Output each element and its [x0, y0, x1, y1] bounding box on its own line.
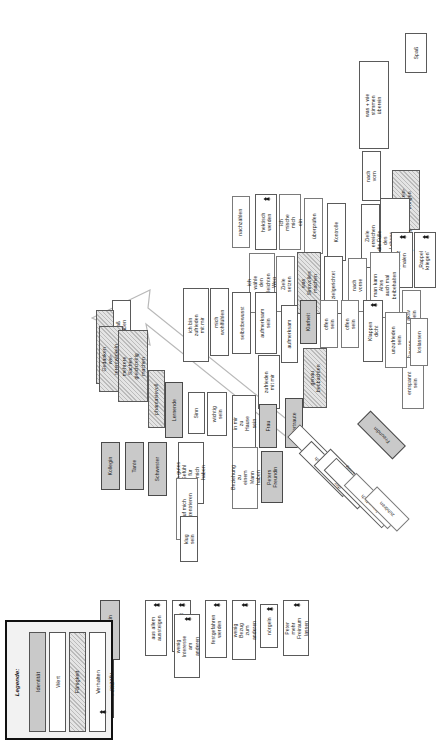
- legend-box: Legende: IdentitätWertFähigkeitVerhalten…: [5, 620, 113, 740]
- node-label: Klarheit: [305, 313, 311, 331]
- legend-item-label: Identität: [35, 672, 41, 692]
- legend-item-verhalten: Verhalten: [89, 632, 106, 732]
- negativ-marker-icon: [184, 617, 193, 621]
- node-label: ich wähle den leichten Weg: [246, 272, 277, 294]
- node-n42: phantasievoll: [148, 370, 165, 428]
- node-label: nach vorn: [365, 169, 377, 184]
- node-label: Kontrolle: [333, 221, 339, 242]
- node-label: entspannt sein: [407, 371, 419, 394]
- legend-item-wert: Wert: [49, 632, 66, 732]
- node-n34: loslassen: [410, 318, 428, 366]
- node-label: überprüfen: [310, 213, 316, 239]
- node-label: klug sein: [183, 532, 195, 546]
- legend-item-label: Fähigkeit: [75, 671, 81, 694]
- node-n47: Peters Freundin: [261, 451, 283, 503]
- node-n15: Ziele setzen: [276, 256, 295, 312]
- negativ-marker-icon: [266, 607, 275, 611]
- node-n03: nach vorn: [362, 151, 381, 201]
- node-label: genau beobachten: [309, 364, 321, 392]
- node-label: Tante: [131, 460, 137, 473]
- node-label: nörgeln: [266, 617, 272, 635]
- node-label: offen sein: [344, 317, 356, 331]
- node-label: zielgerichtet: [330, 271, 336, 299]
- node-n25: selbstbewusst: [232, 292, 251, 354]
- node-n12: überprüfen: [304, 198, 323, 254]
- node-n46: Beziehung zu einem Mann haben: [232, 447, 258, 509]
- node-n63: Peter mehr Freiraum lassen: [283, 600, 309, 656]
- node-label: in mir zu Hause sein: [232, 413, 257, 433]
- node-n61: wenig Bezug zum anderen: [232, 600, 256, 660]
- negativ-marker-icon: [370, 303, 379, 307]
- node-label: nach vorne: [351, 278, 363, 293]
- node-label: Peters Freundin: [266, 467, 278, 488]
- node-label: Kollegin: [107, 457, 113, 476]
- node-n10: hektisch werden: [255, 194, 277, 250]
- node-n01: Spaß: [405, 33, 427, 73]
- node-label: wenig Interesse am anderen: [175, 635, 200, 657]
- node-n29: offen sein: [320, 300, 338, 348]
- node-n02: was + wie stimmen überein: [359, 61, 389, 149]
- node-label: was + wie stimmen überein: [365, 93, 384, 116]
- node-n35: zufrieden mit mir: [258, 355, 280, 409]
- node-n48: Kollegin: [101, 442, 120, 490]
- node-label: Frau: [265, 421, 271, 432]
- node-n40: wichtig sein: [207, 392, 227, 436]
- node-label: man kann Altes auch mal beibehalten: [373, 271, 398, 298]
- node-label: Schwester: [154, 457, 160, 482]
- node-label: ich mische mich ein: [278, 213, 303, 231]
- legend-item-negativ: negativ: [107, 632, 116, 732]
- node-n70: Freundin: [357, 411, 406, 460]
- node-n59: wenig Interesse am anderen: [174, 614, 200, 678]
- legend-item-label: negativ: [109, 673, 115, 691]
- node-label: „Rappel kriegen“: [419, 250, 431, 269]
- node-n27: aufmerksam: [281, 305, 298, 363]
- node-label: phantasievoll: [153, 383, 159, 414]
- negativ-marker-icon: [293, 603, 302, 607]
- node-n09: nachzählen: [232, 196, 250, 248]
- negativ-marker-icon: [422, 235, 431, 239]
- negativ-marker-icon: [153, 603, 162, 607]
- node-label: Spaß: [413, 47, 419, 60]
- node-n08: „Rappel kriegen“: [414, 232, 436, 288]
- node-n41: Lernende: [165, 382, 183, 438]
- node-label: Klappen dicht: [367, 321, 379, 340]
- node-label: zufrieden mit mir: [263, 371, 275, 393]
- node-n60: festgefahren werden: [205, 600, 227, 658]
- legend-item-identitaet: Identität: [29, 632, 46, 732]
- node-label: festgefahren werden: [210, 614, 222, 644]
- node-label: mehrere Sachen gleichzeitig machen: [121, 353, 146, 379]
- node-n24: mich wohlfühlen: [210, 288, 229, 356]
- node-label: Ziele erreichen: [364, 225, 376, 247]
- node-n28: Klarheit: [300, 300, 317, 344]
- node-n62: nörgeln: [260, 604, 278, 648]
- node-label: wichtig sein: [211, 406, 223, 422]
- node-n45: klug sein: [180, 516, 198, 562]
- negativ-marker-icon: [399, 235, 408, 239]
- node-label: wenig Bezug zum anderen: [232, 620, 257, 640]
- node-n30: offen sein: [341, 300, 359, 348]
- negativ-marker-icon: [178, 603, 187, 607]
- node-label: unzufrieden sein: [390, 326, 402, 354]
- node-label: loslassen: [416, 331, 422, 353]
- node-label: zuhören: [378, 500, 396, 518]
- node-n49: Tante: [125, 442, 144, 490]
- node-n32: Klappen dicht: [363, 300, 383, 362]
- legend-item-faehigkeit: Fähigkeit: [69, 632, 86, 732]
- node-label: aufmerksam: [286, 319, 292, 348]
- node-n57: aus allem aussteigen: [145, 600, 167, 656]
- node-label: offen sein: [323, 317, 335, 331]
- poster-canvas: Spaßwas + wie stimmen übereinnach vornLi…: [0, 0, 438, 752]
- node-n37: Frau: [259, 404, 277, 448]
- node-label: Sinn: [193, 408, 199, 419]
- node-label: Ziele setzen: [279, 276, 291, 292]
- node-n11: ich mische mich ein: [279, 194, 301, 250]
- negativ-marker-icon: [241, 603, 250, 607]
- node-label: selbstbewusst: [238, 306, 244, 339]
- node-n13: Kontrolle: [327, 203, 346, 261]
- node-n39: Sinn: [188, 392, 205, 434]
- node-n23: ich bin zufrieden mit mir: [183, 288, 209, 362]
- node-label: aufmerksam sein: [260, 308, 272, 337]
- node-label: Peter mehr Freiraum lassen: [284, 617, 309, 639]
- node-n36: in mir zu Hause sein: [232, 395, 256, 451]
- node-label: ich bin zufrieden mit mir: [187, 314, 206, 336]
